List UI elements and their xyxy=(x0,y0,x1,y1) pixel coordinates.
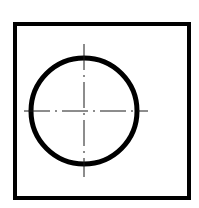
drawing-canvas xyxy=(0,0,199,208)
technical-drawing xyxy=(0,0,199,208)
